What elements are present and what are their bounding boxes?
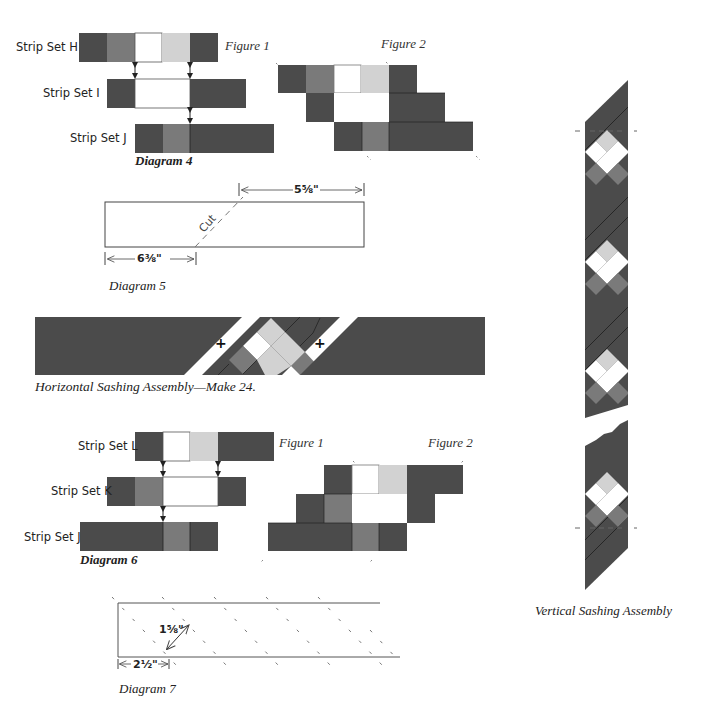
diagram-4: [79, 33, 480, 160]
diagram-4-figure-2: [276, 62, 480, 160]
diagram-6-figure-1-label: Figure 1: [279, 435, 324, 451]
strip-set-l: [135, 432, 274, 461]
diagram-4-figure-1-label: Figure 1: [225, 38, 270, 54]
strip-set-j-label-2: Strip Set J: [24, 530, 81, 544]
strip-set-k: [107, 477, 246, 506]
strip-set-h-label: Strip Set H: [16, 40, 78, 54]
diagram-6-figure-2: [260, 461, 463, 563]
plus-sign-left: +: [215, 335, 227, 351]
diagram-6-figure-2-label: Figure 2: [428, 435, 473, 451]
diagram-5-caption: Diagram 5: [109, 278, 166, 294]
horizontal-sashing-assembly: [35, 317, 485, 375]
diagram-7-diagonal-dimension: 1⅝": [159, 623, 184, 636]
diagram-4-figure-2-label: Figure 2: [381, 36, 426, 52]
strip-set-j: [135, 124, 274, 153]
diagram-5-top-dimension: 5⅝": [294, 183, 319, 196]
vertical-sashing-caption: Vertical Sashing Assembly: [535, 603, 672, 619]
diagram-4-caption: Diagram 4: [135, 153, 192, 169]
horizontal-sashing-caption: Horizontal Sashing Assembly—Make 24.: [35, 379, 256, 395]
strip-set-h: [79, 33, 218, 62]
strip-set-j-label: Strip Set J: [70, 131, 127, 145]
strip-set-i: [107, 79, 246, 108]
plus-sign-right: +: [314, 335, 326, 351]
strip-set-k-label: Strip Set K: [51, 484, 112, 498]
vertical-sashing-assembly: [575, 80, 637, 590]
diagram-7-base-dimension: 2½": [133, 658, 158, 671]
diagram-6-caption: Diagram 6: [80, 552, 137, 568]
strip-set-j-2: [80, 522, 218, 551]
diagram-7-caption: Diagram 7: [119, 681, 176, 697]
diagram-5-bottom-dimension: 6⅜": [137, 252, 162, 265]
strip-set-i-label: Strip Set I: [43, 86, 100, 100]
strip-set-l-label: Strip Set L: [78, 439, 138, 453]
